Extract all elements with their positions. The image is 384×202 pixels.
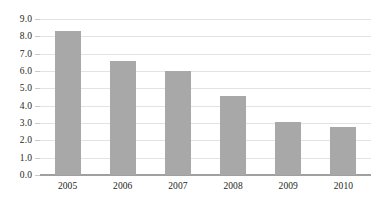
- gridline: [40, 88, 371, 89]
- y-axis-tick-label: 9.0: [20, 14, 32, 24]
- y-axis-tick-mark: [35, 36, 40, 37]
- y-axis-tick-mark: [35, 123, 40, 124]
- y-axis-tick-mark: [35, 140, 40, 141]
- y-axis-tick-label: 3.0: [20, 118, 32, 128]
- x-axis-tick-label: 2010: [334, 181, 353, 191]
- bar: [165, 71, 191, 175]
- gridline: [40, 71, 371, 72]
- bar: [55, 31, 81, 175]
- y-axis-tick-label: 6.0: [20, 66, 32, 76]
- y-axis-tick-mark: [35, 19, 40, 20]
- y-axis-tick-mark: [35, 71, 40, 72]
- y-axis-tick-label: 1.0: [20, 153, 32, 163]
- x-axis-tick-label: 2007: [168, 181, 187, 191]
- bar-chart-figure: 0.01.02.03.04.05.06.07.08.09.02005200620…: [0, 0, 384, 202]
- gridline: [40, 106, 371, 107]
- y-axis-tick-mark: [35, 175, 40, 176]
- gridline: [40, 123, 371, 124]
- plot-area: 0.01.02.03.04.05.06.07.08.09.02005200620…: [40, 19, 371, 175]
- bar: [275, 122, 301, 175]
- x-axis-tick-label: 2005: [58, 181, 77, 191]
- y-axis-tick-mark: [35, 54, 40, 55]
- bar: [110, 61, 136, 175]
- y-axis-tick-label: 4.0: [20, 101, 32, 111]
- y-axis-tick-mark: [35, 106, 40, 107]
- y-axis-tick-label: 0.0: [20, 170, 32, 180]
- bar: [330, 127, 356, 175]
- x-axis-tick-label: 2006: [113, 181, 132, 191]
- y-axis-tick-mark: [35, 158, 40, 159]
- y-axis-tick-label: 7.0: [20, 49, 32, 59]
- gridline: [40, 140, 371, 141]
- gridline: [40, 54, 371, 55]
- y-axis-tick-label: 5.0: [20, 83, 32, 93]
- x-axis-line: [40, 174, 371, 176]
- y-axis-tick-label: 8.0: [20, 31, 32, 41]
- y-axis-tick-label: 2.0: [20, 135, 32, 145]
- y-axis-tick-mark: [35, 88, 40, 89]
- x-axis-tick-label: 2009: [279, 181, 298, 191]
- gridline: [40, 158, 371, 159]
- x-axis-tick-label: 2008: [223, 181, 242, 191]
- bar: [220, 96, 246, 175]
- gridline: [40, 36, 371, 37]
- gridline: [40, 19, 371, 20]
